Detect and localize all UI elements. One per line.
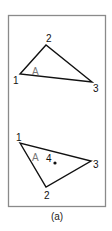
top-triangle-group: 1 2 3 A	[13, 33, 99, 94]
top-vertex-3-label: 3	[93, 83, 99, 94]
bottom-triangle	[20, 143, 91, 187]
bottom-vertex-1-label: 1	[16, 132, 22, 143]
bottom-vertex-2-label: 2	[44, 190, 50, 201]
bottom-vertex-3-label: 3	[93, 159, 99, 170]
figure-frame	[9, 16, 106, 207]
bottom-triangle-group: 1 2 3 A 4	[16, 132, 99, 201]
figure-canvas: 1 2 3 A 1 2 3 A 4 (a)	[0, 0, 112, 231]
top-vertex-2-label: 2	[46, 33, 52, 44]
bottom-region-a-label: A	[32, 152, 39, 163]
top-region-a-label: A	[32, 66, 39, 77]
point-4-dot	[53, 161, 56, 164]
top-triangle	[20, 45, 92, 82]
top-vertex-1-label: 1	[13, 75, 19, 86]
figure-caption: (a)	[51, 211, 63, 222]
bottom-point-4-label: 4	[46, 153, 52, 164]
